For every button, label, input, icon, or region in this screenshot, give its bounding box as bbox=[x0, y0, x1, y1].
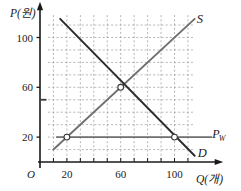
y-axis-label: P(원) bbox=[9, 7, 36, 20]
supply-demand-chart: P(원) Q(개) O 2060100 2060100 S D P W bbox=[0, 0, 241, 191]
supply-at-world-price bbox=[64, 134, 70, 140]
demand-curve-label: D bbox=[197, 146, 207, 160]
x-tick-label: 100 bbox=[166, 168, 183, 180]
y-tick-label: 60 bbox=[22, 81, 34, 93]
x-tick-label: 60 bbox=[115, 168, 127, 180]
demand-at-world-price bbox=[172, 134, 178, 140]
origin-label: O bbox=[27, 168, 35, 180]
chart-canvas: P(원) Q(개) O 2060100 2060100 S D P W bbox=[0, 0, 241, 191]
x-tick-label: 20 bbox=[61, 168, 73, 180]
y-tick-label: 20 bbox=[22, 131, 34, 143]
supply-curve-label: S bbox=[197, 12, 204, 26]
y-tick-label: 100 bbox=[17, 32, 34, 44]
x-axis-label: Q(개) bbox=[196, 173, 223, 186]
market-equilibrium bbox=[118, 84, 124, 90]
